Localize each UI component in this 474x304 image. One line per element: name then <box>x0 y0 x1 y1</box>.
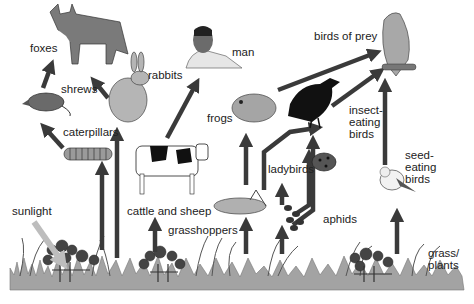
label-sunlight: sunlight <box>12 205 52 217</box>
label-insect-eating-birds: insect- eating birds <box>349 104 383 140</box>
label-caterpillars: caterpillars <box>63 126 119 138</box>
label-aphids: aphids <box>323 213 357 225</box>
label-cattle-and-sheep: cattle and sheep <box>127 205 211 217</box>
label-man: man <box>232 46 254 58</box>
frog-icon <box>232 94 276 122</box>
label-frogs: frogs <box>207 112 233 124</box>
label-foxes: foxes <box>30 42 58 54</box>
ladybird-icon <box>312 153 336 171</box>
label-ladybirds: ladybirds <box>268 163 314 175</box>
label-birds-of-prey: birds of prey <box>314 30 377 42</box>
food-web-diagram: foxes shrews rabbits man birds of prey c… <box>0 0 474 304</box>
label-grasshoppers: grasshoppers <box>168 224 238 236</box>
fox-icon <box>50 4 128 64</box>
bird-of-prey-icon <box>382 13 416 76</box>
caterpillar-icon <box>64 148 112 160</box>
cow-icon <box>136 144 208 194</box>
label-rabbits: rabbits <box>148 69 183 81</box>
label-shrews: shrews <box>61 83 97 95</box>
label-seed-eating-birds: seed- eating birds <box>405 149 436 185</box>
label-grass-plants: grass/ plants <box>428 247 459 271</box>
grasshopper-icon <box>214 190 266 214</box>
shrew-icon <box>22 93 70 116</box>
rabbit-icon <box>109 52 149 122</box>
